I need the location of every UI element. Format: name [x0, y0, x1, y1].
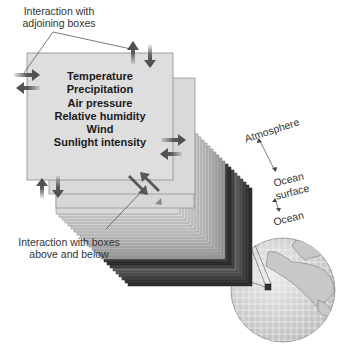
label-line: adjoining boxes [8, 17, 110, 29]
label-line: Interaction with boxes [4, 236, 134, 248]
variable-temperature: Temperature [27, 70, 173, 83]
label-line: Interaction with [8, 5, 110, 17]
variable-sunlight-intensity: Sunlight intensity [27, 136, 173, 149]
grid-cell-marker [265, 284, 271, 290]
label-interaction-above-below: Interaction with boxes above and below [4, 236, 134, 260]
variable-air-pressure: Air pressure [27, 97, 173, 110]
variable-precipitation: Precipitation [27, 83, 173, 96]
label-line: above and below [4, 248, 134, 260]
variable-wind: Wind [27, 123, 173, 136]
climate-model-diagram: Interaction with adjoining boxes Tempera… [0, 0, 341, 348]
box-variables-list: Temperature Precipitation Air pressure R… [27, 70, 173, 150]
variable-relative-humidity: Relative humidity [27, 110, 173, 123]
label-interaction-adjoining: Interaction with adjoining boxes [8, 5, 110, 29]
